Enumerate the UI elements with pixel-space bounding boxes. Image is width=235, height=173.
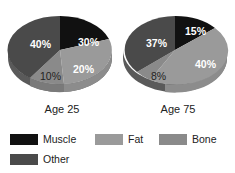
- svg-text:15%: 15%: [185, 25, 207, 37]
- pie-age-75: [123, 16, 228, 93]
- legend-muscle: Muscle: [10, 133, 76, 145]
- title-age-25: Age 25: [22, 103, 102, 115]
- legend-fat: Fat: [95, 133, 143, 145]
- svg-text:40%: 40%: [195, 58, 217, 70]
- pie-charts: 30% 20% 40% 10% 15% 40% 37% 8%: [0, 0, 235, 173]
- muscle-swatch: [10, 134, 38, 145]
- legend-bone: Bone: [159, 133, 217, 145]
- svg-text:10%: 10%: [40, 70, 61, 82]
- svg-text:37%: 37%: [146, 37, 168, 49]
- fat-swatch: [95, 134, 123, 145]
- svg-text:20%: 20%: [73, 63, 95, 75]
- title-age-75: Age 75: [138, 103, 218, 115]
- bone-swatch: [159, 134, 187, 145]
- svg-text:30%: 30%: [78, 36, 100, 48]
- other-swatch: [10, 154, 38, 165]
- svg-text:8%: 8%: [151, 70, 166, 82]
- legend-other: Other: [10, 153, 69, 165]
- svg-text:40%: 40%: [30, 38, 52, 50]
